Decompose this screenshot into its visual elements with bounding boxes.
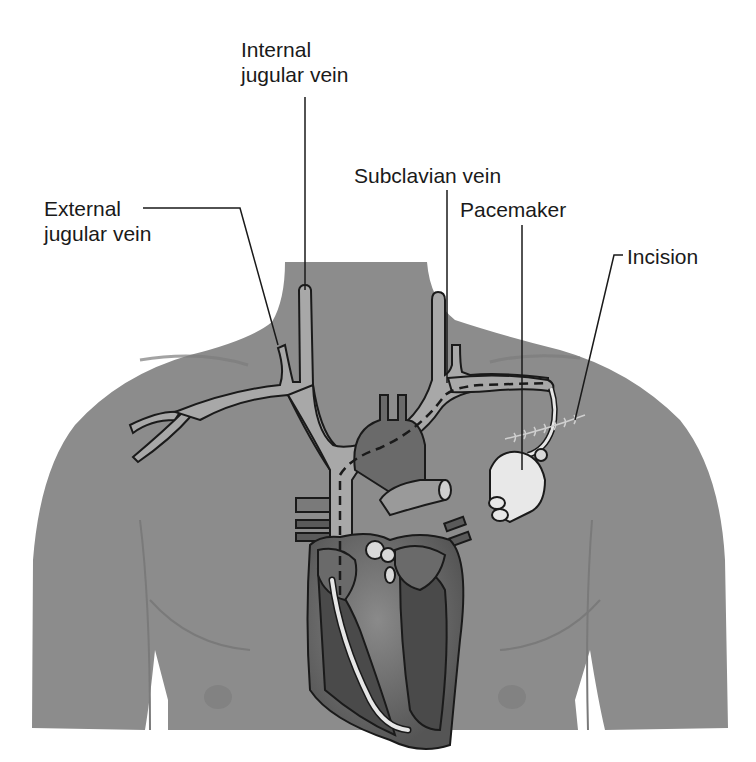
label-subclavian-vein: Subclavian vein [354, 163, 501, 188]
label-line: Internal [241, 37, 348, 62]
left-nipple [204, 685, 232, 709]
label-line: External [44, 196, 151, 221]
label-line: jugular vein [44, 221, 151, 246]
label-internal-jugular-vein: Internal jugular vein [241, 37, 348, 87]
label-pacemaker: Pacemaker [460, 197, 566, 222]
label-line: Pacemaker [460, 197, 566, 222]
right-nipple [498, 685, 526, 709]
label-line: Incision [627, 244, 698, 269]
label-external-jugular-vein: External jugular vein [44, 196, 151, 246]
label-incision: Incision [627, 244, 698, 269]
label-line: Subclavian vein [354, 163, 501, 188]
label-line: jugular vein [241, 62, 348, 87]
pacemaker-anatomy-diagram: Internal jugular vein External jugular v… [0, 0, 756, 762]
